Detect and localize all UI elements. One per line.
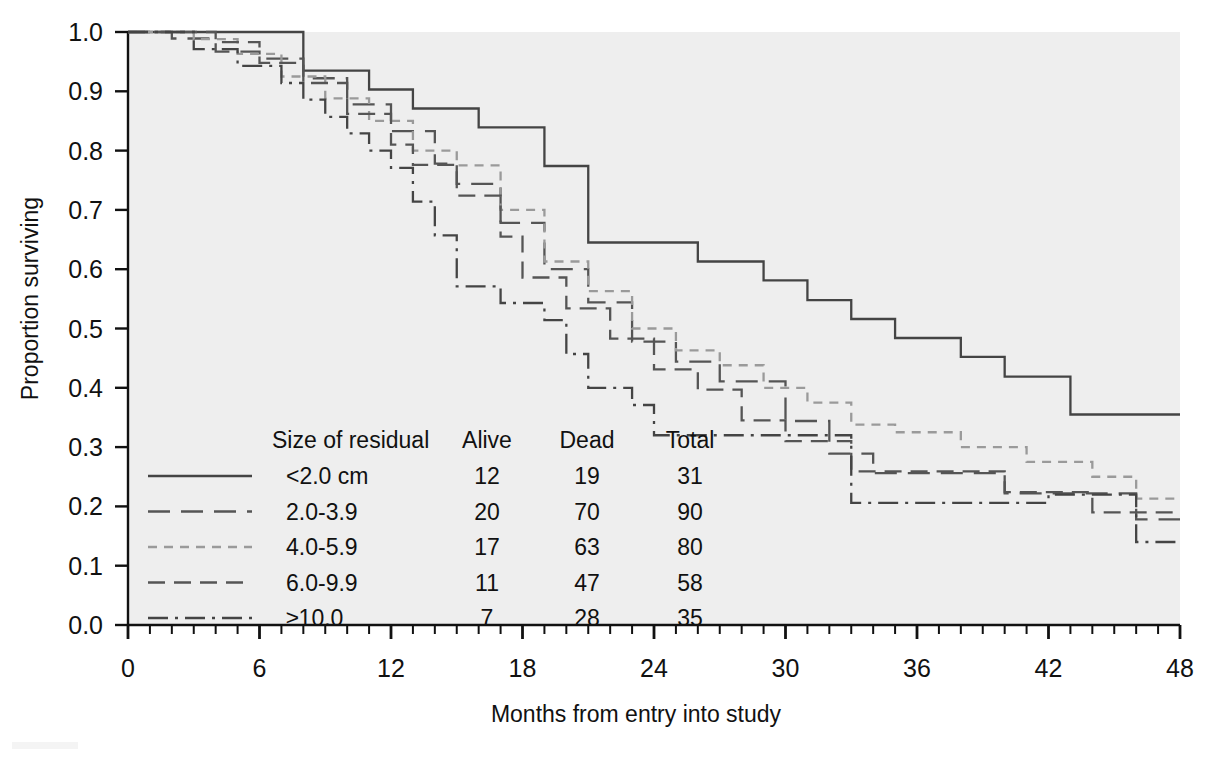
legend-row-alive: 17 bbox=[474, 534, 500, 560]
legend-row-alive: 12 bbox=[474, 463, 500, 489]
legend-row-dead: 63 bbox=[574, 534, 600, 560]
x-axis-title: Months from entry into study bbox=[491, 701, 782, 727]
figure-container: 0.00.10.20.30.40.50.60.70.80.91.00612182… bbox=[0, 0, 1219, 764]
legend-row-dead: 28 bbox=[574, 605, 600, 631]
x-axis-tick-label: 48 bbox=[1166, 654, 1194, 682]
legend-row-alive: 11 bbox=[475, 570, 499, 596]
legend-row-total: 58 bbox=[677, 570, 703, 596]
legend-row-label: ≥10.0 bbox=[286, 605, 343, 631]
y-axis-tick-label: 0.1 bbox=[68, 552, 103, 580]
legend-row-label: 6.0-9.9 bbox=[286, 570, 358, 596]
scan-artifact-mark bbox=[12, 742, 78, 749]
x-axis-tick-label: 24 bbox=[640, 654, 668, 682]
y-axis-title: Proportion surviving bbox=[17, 197, 43, 400]
x-axis-tick-label: 36 bbox=[903, 654, 931, 682]
y-axis-tick-label: 0.0 bbox=[68, 611, 103, 639]
legend-row-label: 2.0-3.9 bbox=[286, 499, 358, 525]
y-axis-tick-label: 0.9 bbox=[68, 77, 103, 105]
legend-row-dead: 70 bbox=[574, 499, 600, 525]
legend-row-alive: 20 bbox=[474, 499, 500, 525]
y-axis-tick-label: 0.2 bbox=[68, 492, 103, 520]
y-axis-tick-label: 0.3 bbox=[68, 433, 103, 461]
legend-row-dead: 19 bbox=[574, 463, 600, 489]
y-axis-tick-label: 0.5 bbox=[68, 315, 103, 343]
legend-row-label: 4.0-5.9 bbox=[286, 534, 358, 560]
x-axis-tick-label: 42 bbox=[1035, 654, 1063, 682]
y-axis-tick-label: 0.4 bbox=[68, 374, 103, 402]
y-axis-tick-label: 0.7 bbox=[68, 196, 103, 224]
y-axis-tick-label: 1.0 bbox=[68, 18, 103, 46]
x-axis-tick-label: 30 bbox=[772, 654, 800, 682]
legend-row-total: 80 bbox=[677, 534, 703, 560]
legend-header: Size of residual bbox=[272, 427, 429, 453]
x-axis-tick-label: 6 bbox=[253, 654, 267, 682]
x-axis-tick-label: 18 bbox=[509, 654, 537, 682]
legend-row-label: <2.0 cm bbox=[286, 463, 368, 489]
x-axis-tick-label: 12 bbox=[377, 654, 405, 682]
y-axis-tick-label: 0.8 bbox=[68, 137, 103, 165]
legend-row-total: 35 bbox=[677, 605, 703, 631]
legend-row-alive: 7 bbox=[481, 605, 494, 631]
legend-row-total: 90 bbox=[677, 499, 703, 525]
survival-chart: 0.00.10.20.30.40.50.60.70.80.91.00612182… bbox=[0, 0, 1219, 764]
legend-header: Alive bbox=[462, 427, 512, 453]
legend-row-dead: 47 bbox=[574, 570, 600, 596]
legend-row-total: 31 bbox=[677, 463, 703, 489]
legend-header: Total bbox=[666, 427, 715, 453]
legend-header: Dead bbox=[560, 427, 615, 453]
x-axis-tick-label: 0 bbox=[121, 654, 135, 682]
y-axis-tick-label: 0.6 bbox=[68, 255, 103, 283]
